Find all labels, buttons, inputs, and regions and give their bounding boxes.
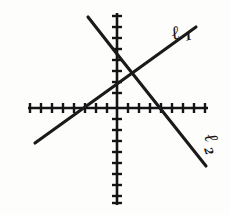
line-2-label: ℓ 2	[197, 130, 227, 157]
coordinate-plane-figure: ℓ 1 ℓ 2	[0, 0, 230, 215]
line-2-label-symbol: ℓ	[200, 130, 223, 145]
graph-canvas: ℓ 1 ℓ 2	[0, 0, 230, 215]
graph-line-1	[35, 27, 196, 143]
line-2-label-subscript: 2	[201, 145, 216, 158]
line-1-label-symbol: ℓ	[169, 21, 182, 44]
